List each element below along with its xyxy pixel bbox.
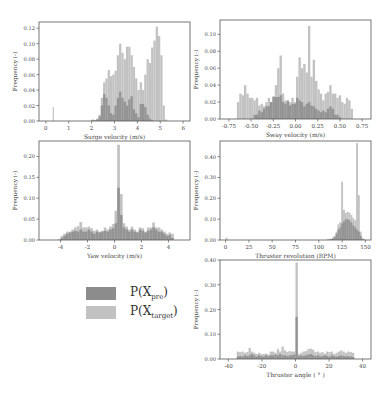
x-tick-label: -0.50: [244, 123, 259, 129]
bar-pre: [110, 113, 112, 121]
bar-pre: [125, 230, 128, 240]
bar-pre: [347, 219, 349, 240]
bar-pre: [96, 232, 99, 240]
bar-pre: [261, 112, 263, 119]
x-tick-label: 0.75: [356, 123, 369, 129]
bar-pre: [360, 236, 362, 240]
bar-pre: [253, 355, 255, 359]
legend-swatch-pre: [86, 287, 116, 300]
y-tick-label: 0.10: [204, 31, 216, 37]
bar-pre: [98, 232, 101, 240]
bar-pre: [265, 355, 267, 359]
x-tick-label: 0: [224, 244, 228, 250]
bar-target: [147, 59, 149, 121]
bar-pre: [320, 112, 322, 119]
bar-pre: [286, 356, 288, 359]
x-tick-label: 2: [140, 244, 144, 250]
bar-pre: [329, 106, 331, 119]
histogram-bars: [237, 262, 354, 359]
bar-pre: [324, 355, 326, 359]
bar-target: [112, 75, 114, 121]
bar-pre: [131, 96, 133, 121]
bar-pre: [342, 356, 344, 359]
y-tick-label: 0.10: [204, 331, 216, 337]
bar-pre: [300, 355, 302, 359]
y-tick-label: 0.30: [204, 174, 216, 180]
bar-pre: [74, 231, 77, 240]
bar-pre: [163, 234, 166, 240]
bar-pre: [104, 231, 107, 240]
bar-pre: [317, 111, 319, 119]
y-axis-label: Frequency (-): [193, 50, 200, 90]
x-tick-label: 40: [359, 363, 366, 369]
bar-pre: [136, 232, 139, 240]
y-axis-label: Frequency (-): [193, 171, 200, 211]
x-axis-label: Surge velocity (m/s): [84, 133, 145, 141]
bar-pre: [270, 102, 272, 119]
y-tick-label: 0.00: [204, 237, 216, 243]
histogram-bars: [226, 143, 366, 240]
bar-pre: [296, 317, 298, 359]
bar-pre: [105, 98, 107, 121]
x-tick-label: 5: [159, 125, 163, 131]
x-tick-label: 25: [245, 244, 252, 250]
bar-pre: [239, 356, 241, 359]
bar-pre: [312, 355, 314, 359]
bar-pre: [345, 219, 347, 240]
bar-pre: [296, 98, 298, 119]
bar-pre: [120, 215, 123, 240]
x-tick-label: 0.50: [334, 123, 347, 129]
bar-pre: [287, 100, 289, 119]
bar-pre: [275, 97, 277, 119]
x-tick-label: 150: [360, 244, 371, 250]
y-tick-label: 0.00: [204, 116, 216, 122]
bar-pre: [117, 98, 119, 121]
bar-pre: [133, 109, 135, 121]
bar-pre: [263, 109, 265, 119]
bar-pre: [305, 355, 307, 359]
y-tick-label: 0.10: [23, 41, 35, 47]
x-tick-label: -2: [85, 244, 90, 250]
bar-pre: [291, 355, 293, 359]
x-tick-label: 0.25: [312, 123, 325, 129]
bar-pre: [258, 111, 260, 119]
bar-pre: [115, 106, 117, 121]
x-tick-label: -40: [224, 363, 233, 369]
bar-pre: [350, 222, 352, 240]
bar-pre: [88, 230, 91, 240]
histogram-bars: [237, 26, 353, 119]
bar-target: [237, 102, 239, 119]
y-tick-label: 0.05: [23, 216, 35, 222]
bar-pre: [140, 104, 142, 121]
y-tick-label: 0.02: [23, 103, 35, 109]
bar-pre: [306, 104, 308, 119]
x-tick-label: 0.00: [289, 123, 302, 129]
subplot-sway: -0.75-0.50-0.250.000.250.500.750.000.020…: [193, 20, 371, 139]
subplot-yaw: -4-20240.000.050.100.150.20Yaw velocity …: [12, 141, 190, 260]
y-tick-label: 0.04: [204, 82, 216, 88]
figure-canvas: 01234560.000.020.040.060.080.100.12Surge…: [0, 0, 391, 394]
bar-pre: [98, 116, 100, 121]
y-tick-label: 0.08: [204, 48, 216, 54]
bar-pre: [325, 112, 327, 119]
bar-pre: [256, 115, 258, 119]
bar-pre: [253, 115, 255, 119]
bar-pre: [82, 232, 85, 240]
bar-pre: [358, 232, 360, 240]
bar-target: [151, 48, 153, 121]
bar-pre: [303, 356, 305, 359]
bar-pre: [301, 102, 303, 119]
bar-pre: [168, 235, 171, 240]
x-tick-label: 0: [44, 125, 48, 131]
x-tick-label: 1: [67, 125, 71, 131]
bar-pre: [155, 230, 158, 240]
bar-pre: [336, 234, 338, 240]
y-tick-label: 0.00: [204, 356, 216, 362]
bar-target: [158, 36, 160, 121]
x-axis-label: Sway velocity (m/s): [266, 131, 325, 139]
bar-pre: [123, 227, 126, 240]
bar-pre: [272, 97, 274, 119]
y-axis-label: Frequency (-): [12, 52, 19, 92]
bar-pre: [152, 227, 155, 240]
bar-target: [53, 107, 54, 121]
